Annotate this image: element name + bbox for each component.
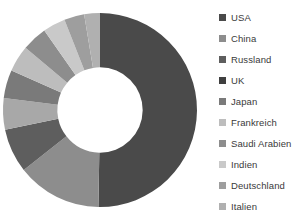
legend-swatch-icon: [219, 140, 226, 147]
legend-swatch-icon: [219, 56, 226, 63]
legend-item-label: Frankreich: [231, 118, 277, 128]
legend-item[interactable]: Indien: [219, 154, 295, 175]
donut-chart-area: [0, 0, 205, 219]
legend-swatch-icon: [219, 203, 226, 210]
legend-item-label: China: [231, 34, 256, 44]
legend-item[interactable]: UK: [219, 70, 295, 91]
legend-swatch-icon: [219, 161, 226, 168]
legend-swatch-icon: [219, 119, 226, 126]
legend-item-label: Japan: [231, 97, 257, 107]
legend-item[interactable]: USA: [219, 7, 295, 28]
donut-chart: [0, 0, 205, 219]
legend-item[interactable]: China: [219, 28, 295, 49]
legend-item[interactable]: Japan: [219, 91, 295, 112]
legend-item[interactable]: Frankreich: [219, 112, 295, 133]
legend-item-label: Indien: [231, 160, 257, 170]
legend-item-label: UK: [231, 76, 244, 86]
legend-swatch-icon: [219, 35, 226, 42]
legend-item-label: Italien: [231, 202, 257, 212]
legend-swatch-icon: [219, 182, 226, 189]
legend-item[interactable]: Italien: [219, 196, 295, 217]
legend-item[interactable]: Saudi Arabien: [219, 133, 295, 154]
legend-item[interactable]: Russland: [219, 49, 295, 70]
legend-item-label: Saudi Arabien: [231, 139, 291, 149]
legend-swatch-icon: [219, 98, 226, 105]
legend-item[interactable]: Deutschland: [219, 175, 295, 196]
legend-swatch-icon: [219, 14, 226, 21]
legend-item-label: Deutschland: [231, 181, 285, 191]
legend-item-label: Russland: [231, 55, 271, 65]
donut-slice-group: [3, 13, 197, 207]
chart-screenshot: USAChinaRusslandUKJapanFrankreichSaudi A…: [0, 0, 295, 219]
legend-swatch-icon: [219, 77, 226, 84]
chart-legend: USAChinaRusslandUKJapanFrankreichSaudi A…: [219, 0, 295, 219]
legend-item-label: USA: [231, 13, 251, 23]
donut-slice: [98, 13, 197, 207]
